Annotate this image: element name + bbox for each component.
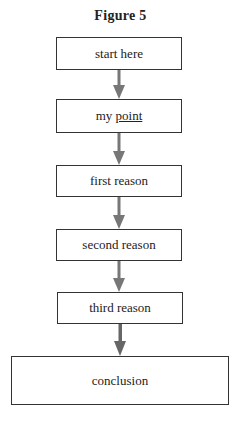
node-label: first reason — [90, 173, 148, 189]
arrow-icon — [111, 70, 127, 99]
node-label-underlined: point — [116, 108, 143, 124]
node-third-reason: third reason — [57, 292, 183, 324]
arrow-icon — [111, 197, 127, 229]
figure-title: Figure 5 — [0, 8, 241, 24]
node-my-point: my point — [56, 99, 182, 133]
node-start-here: start here — [56, 37, 182, 70]
arrow-icon — [112, 324, 128, 356]
node-label: start here — [95, 46, 143, 62]
node-label: conclusion — [92, 373, 148, 389]
arrow-icon — [111, 133, 127, 165]
node-label-prefix: my — [96, 108, 116, 124]
arrow-icon — [111, 261, 127, 292]
node-label: third reason — [89, 300, 151, 316]
node-first-reason: first reason — [56, 165, 182, 197]
node-label: second reason — [82, 237, 155, 253]
node-second-reason: second reason — [56, 229, 182, 261]
node-conclusion: conclusion — [11, 356, 229, 405]
